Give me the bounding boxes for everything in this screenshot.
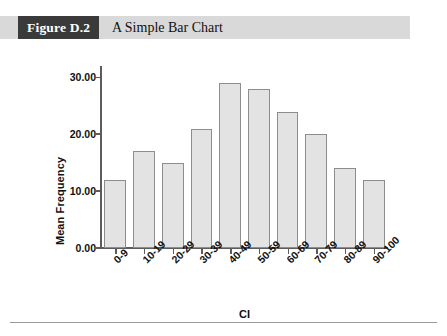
y-axis-tick-mark	[95, 247, 101, 249]
bar	[219, 83, 241, 248]
bar	[277, 112, 299, 249]
plot-area	[101, 66, 388, 248]
bar	[363, 180, 385, 248]
bar	[133, 151, 155, 248]
bar	[248, 89, 270, 248]
bar	[191, 129, 213, 248]
y-axis-tick-label: 10.00	[52, 185, 96, 197]
figure-caption: A Simple Bar Chart	[112, 16, 223, 39]
y-axis-tick-mark	[95, 133, 101, 135]
bar-chart: Mean Frequency 0.0010.0020.0030.00 CI 0-…	[0, 45, 447, 315]
y-axis-tick-label: 0.00	[52, 242, 96, 254]
x-axis-title: CI	[101, 308, 388, 320]
bar	[104, 180, 126, 248]
bottom-divider	[10, 322, 437, 323]
y-axis-tick-label: 20.00	[52, 128, 96, 140]
y-axis-tick-mark	[95, 77, 101, 79]
bar	[305, 134, 327, 248]
y-axis-tick-labels: 0.0010.0020.0030.00	[48, 45, 96, 315]
bar	[162, 163, 184, 248]
y-axis-tick-label: 30.00	[52, 71, 96, 83]
figure-number-label: Figure D.2	[18, 16, 99, 39]
bar	[334, 168, 356, 248]
x-axis-tick-label: 0-9	[111, 246, 130, 265]
y-axis-tick-mark	[95, 190, 101, 192]
